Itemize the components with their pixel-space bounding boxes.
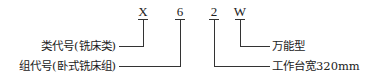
connector-x-horizontal (119, 46, 144, 47)
code-char-6: 6 (173, 5, 187, 19)
code-char-2: 2 (207, 5, 221, 19)
connector-6-vertical (180, 19, 181, 67)
code-char-x: X (136, 5, 150, 19)
label-table-width: 工作台宽320mm (272, 59, 360, 73)
label-class-code: 类代号(铣床类) (41, 39, 116, 53)
connector-2-horizontal (214, 66, 270, 67)
connector-w-vertical (240, 19, 241, 47)
connector-x-vertical (143, 19, 144, 47)
connector-6-horizontal (119, 66, 181, 67)
connector-w-horizontal (240, 46, 270, 47)
label-group-code: 组代号(卧式铣床组) (19, 59, 116, 73)
connector-2-vertical (214, 19, 215, 67)
code-char-w: W (233, 5, 247, 19)
label-universal: 万能型 (272, 39, 305, 53)
